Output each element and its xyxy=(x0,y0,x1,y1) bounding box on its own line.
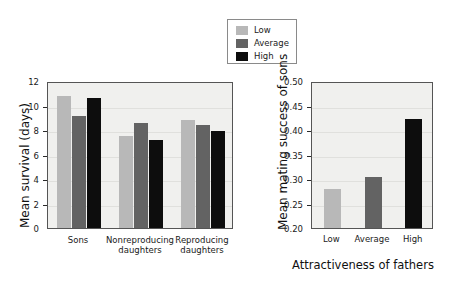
bar xyxy=(196,125,210,229)
plot-area-survival xyxy=(47,82,233,229)
figure-root: Low Average High Mean survival (days) 02… xyxy=(0,0,450,294)
y-tick-label: 0 xyxy=(0,224,39,234)
bar xyxy=(181,120,195,228)
chart-panel-mating-success: Mean mating success of sons 0.200.250.30… xyxy=(262,0,450,294)
x-tick-label: High xyxy=(380,234,445,244)
y-tick-label: 0.50 xyxy=(262,77,303,87)
y-tick-label: 0.35 xyxy=(262,151,303,161)
bar xyxy=(119,136,133,228)
y-tick-label: 0.20 xyxy=(262,224,303,234)
y-tick-label: 12 xyxy=(0,77,39,87)
bar xyxy=(365,177,382,228)
y-tick-label: 0.30 xyxy=(262,175,303,185)
y-tick-label: 0.40 xyxy=(262,126,303,136)
y-tick-label: 0.25 xyxy=(262,200,303,210)
bar xyxy=(324,189,341,228)
bar xyxy=(405,119,422,228)
x-tick-label: Reproducing daughters xyxy=(159,235,245,255)
y-tick-label: 10 xyxy=(0,102,39,112)
gridline xyxy=(312,108,432,109)
gridline xyxy=(48,108,232,109)
plot-area-mating-success xyxy=(311,82,433,229)
bar xyxy=(57,96,71,228)
y-tick-label: 6 xyxy=(0,151,39,161)
y-tick-label: 8 xyxy=(0,126,39,136)
bar xyxy=(149,140,163,228)
y-tick-label: 4 xyxy=(0,175,39,185)
y-tick-label: 2 xyxy=(0,200,39,210)
chart-panel-survival: Mean survival (days) 024681012 SonsNonre… xyxy=(0,0,262,294)
bar xyxy=(87,98,101,228)
y-tick-label: 0.45 xyxy=(262,102,303,112)
bar xyxy=(134,123,148,228)
bar xyxy=(72,116,86,228)
bar xyxy=(211,131,225,228)
x-axis-title-right: Attractiveness of fathers xyxy=(276,258,450,272)
